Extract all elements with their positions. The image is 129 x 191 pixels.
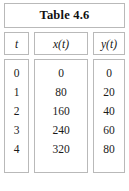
table-cell: 240	[35, 121, 87, 140]
table-cell: 3	[5, 121, 28, 140]
column-header-label-yt: y(t)	[101, 38, 117, 50]
column-header-cell-xt: x(t)	[34, 32, 88, 55]
table-cell: 40	[94, 102, 124, 121]
table-cell: 60	[94, 121, 124, 140]
table-column-yt: y(t) 0 20 40 60 80	[93, 32, 125, 173]
table-cell: 1	[5, 83, 28, 102]
table-column-t: t 0 1 2 3 4	[4, 32, 29, 173]
column-header-label-xt: x(t)	[53, 38, 69, 50]
column-body-t: 0 1 2 3 4	[4, 59, 29, 173]
column-header-label-t: t	[15, 38, 18, 50]
table-cell: 320	[35, 140, 87, 159]
table-columns: t 0 1 2 3 4 x(t) 0 80 160 240 320	[4, 32, 125, 173]
column-body-xt: 0 80 160 240 320	[34, 59, 88, 173]
table-cell: 4	[5, 140, 28, 159]
column-header-cell-yt: y(t)	[93, 32, 125, 55]
table-cell: 80	[35, 83, 87, 102]
table-cell: 160	[35, 102, 87, 121]
table-figure: Table 4.6 t 0 1 2 3 4 x(t) 0 80 160 240	[0, 0, 129, 191]
column-header-cell-t: t	[4, 32, 29, 55]
table-cell: 80	[94, 140, 124, 159]
table-cell: 20	[94, 83, 124, 102]
table-column-xt: x(t) 0 80 160 240 320	[34, 32, 88, 173]
table-cell: 0	[94, 64, 124, 83]
table-cell: 2	[5, 102, 28, 121]
table-cell: 0	[5, 64, 28, 83]
table-title-box: Table 4.6	[4, 3, 125, 28]
column-body-yt: 0 20 40 60 80	[93, 59, 125, 173]
table-cell: 0	[35, 64, 87, 83]
page-title: Table 4.6	[40, 8, 90, 23]
